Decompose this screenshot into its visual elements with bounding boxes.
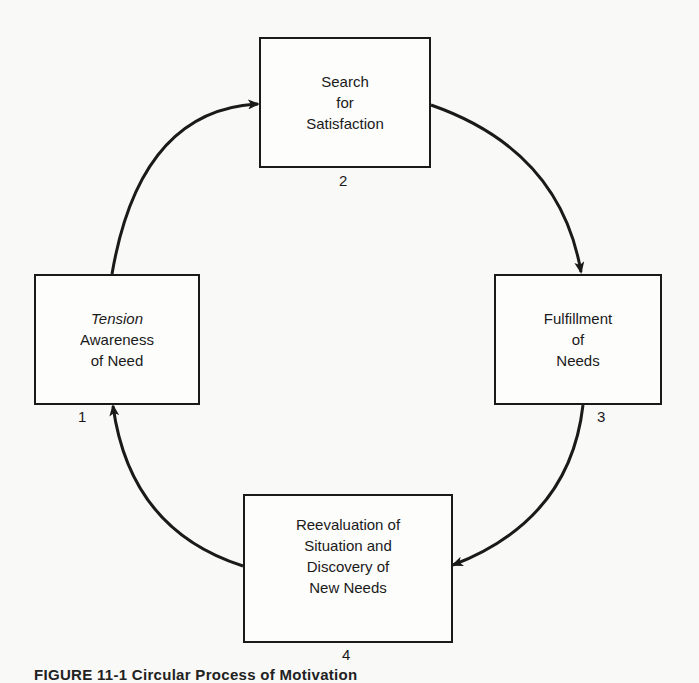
node-2-line-3: Satisfaction bbox=[306, 113, 384, 134]
node-tension-awareness-of-need: Tension Awareness of Need bbox=[34, 274, 200, 405]
node-4-line-3: Discovery of bbox=[307, 556, 390, 577]
node-fulfillment-of-needs: Fulfillment of Needs bbox=[494, 274, 662, 405]
node-3-line-3: Needs bbox=[556, 350, 599, 371]
arrow-2-to-3 bbox=[431, 105, 581, 272]
node-4-number: 4 bbox=[342, 646, 350, 663]
node-2-line-1: Search bbox=[321, 71, 369, 92]
figure-caption: FIGURE 11-1 Circular Process of Motivati… bbox=[34, 666, 358, 683]
node-1-line-3: of Need bbox=[91, 350, 144, 371]
arrow-4-to-1 bbox=[113, 406, 243, 566]
node-2-number: 2 bbox=[339, 172, 347, 189]
node-3-line-1: Fulfillment bbox=[544, 308, 612, 329]
arrow-3-to-4 bbox=[453, 405, 583, 565]
node-search-for-satisfaction: Search for Satisfaction bbox=[259, 37, 431, 168]
node-4-line-4: New Needs bbox=[309, 577, 387, 598]
node-3-number: 3 bbox=[597, 408, 605, 425]
node-1-number: 1 bbox=[78, 408, 86, 425]
node-2-line-2: for bbox=[336, 92, 354, 113]
node-3-line-2: of bbox=[572, 329, 585, 350]
node-reevaluation: Reevaluation of Situation and Discovery … bbox=[243, 494, 453, 643]
arrow-1-to-2 bbox=[112, 104, 258, 274]
node-4-line-1: Reevaluation of bbox=[296, 514, 400, 535]
node-4-line-2: Situation and bbox=[304, 535, 392, 556]
node-1-line-1: Tension bbox=[91, 308, 143, 329]
node-1-line-2: Awareness bbox=[80, 329, 154, 350]
